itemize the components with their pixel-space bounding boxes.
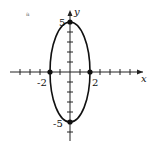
point-label-2: 2 — [92, 77, 98, 88]
x-axis — [10, 69, 143, 75]
y-axis-label: y — [73, 6, 80, 17]
point-label-neg2: -2 — [37, 77, 47, 88]
ellipse-chart: a -2 2 5 -5 x y — [0, 0, 154, 146]
panel-label: a — [26, 10, 30, 17]
point-label-5: 5 — [59, 17, 65, 28]
point-label-neg5: -5 — [53, 118, 63, 129]
x-axis-label: x — [141, 73, 147, 84]
